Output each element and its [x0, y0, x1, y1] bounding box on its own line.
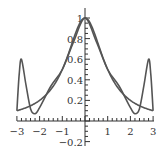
x-tick-label: 3	[150, 126, 156, 137]
y-tick-label: 0.4	[67, 75, 83, 86]
x-tick-label: −2	[32, 126, 47, 137]
y-tick-label: −0.2	[59, 137, 83, 148]
x-tick-labels: −3−2−1123	[10, 126, 157, 137]
x-tick-label: 1	[105, 126, 111, 137]
x-tick-label: −3	[10, 126, 25, 137]
chart: −3−2−1123 −0.20.20.40.60.81	[0, 0, 162, 160]
x-tick-label: −1	[55, 126, 70, 137]
y-tick-label: 0.2	[67, 95, 83, 106]
y-tick-label: 0.6	[67, 54, 83, 65]
x-tick-label: 2	[127, 126, 133, 137]
y-axis	[85, 8, 90, 146]
